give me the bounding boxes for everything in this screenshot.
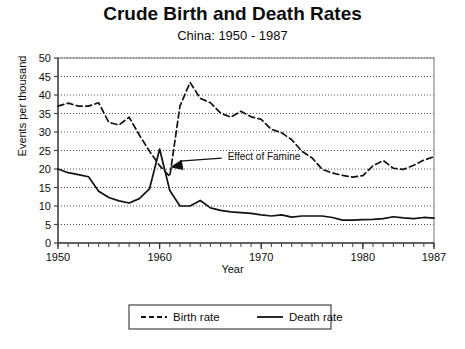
x-tick-label: 1960	[147, 251, 171, 263]
series-line-birth-rate	[58, 82, 434, 177]
legend-label: Death rate	[289, 311, 343, 323]
x-tick-label: 1987	[422, 251, 446, 263]
legend-label: Birth rate	[173, 311, 220, 323]
x-tick-label: 1970	[249, 251, 273, 263]
x-tick-label: 1980	[351, 251, 375, 263]
chart-annotations: Effect of Famine	[170, 151, 301, 170]
y-tick-label: 35	[39, 108, 51, 120]
annotation-arrow-tail	[180, 158, 222, 161]
x-tick-label: 1950	[46, 251, 70, 263]
chart-legend: Birth rateDeath rate	[129, 305, 343, 329]
y-tick-label: 10	[39, 200, 51, 212]
y-tick-label: 20	[39, 163, 51, 175]
plot-area: 05101520253035404550 1950196019701980198…	[0, 0, 465, 349]
y-tick-label: 25	[39, 145, 51, 157]
y-tick-label: 15	[39, 182, 51, 194]
x-axis-ticks: 19501960197019801987	[46, 243, 446, 263]
y-tick-label: 0	[45, 237, 51, 249]
annotation-label: Effect of Famine	[228, 151, 301, 162]
y-tick-label: 5	[45, 219, 51, 231]
chart-container: Crude Birth and Death Rates China: 1950 …	[0, 0, 465, 349]
y-tick-label: 40	[39, 89, 51, 101]
y-tick-label: 30	[39, 126, 51, 138]
y-tick-label: 50	[39, 52, 51, 64]
y-axis-ticks: 05101520253035404550	[39, 52, 58, 249]
y-tick-label: 45	[39, 71, 51, 83]
